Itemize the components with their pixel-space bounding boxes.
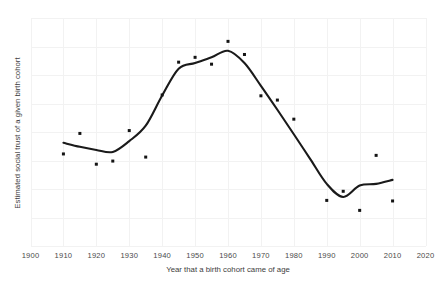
data-point: [62, 152, 65, 155]
x-tick-label: 2010: [384, 251, 402, 260]
data-point: [78, 132, 81, 135]
x-tick-label: 1990: [318, 251, 336, 260]
data-point: [194, 56, 197, 59]
x-tick-label: 1930: [120, 251, 138, 260]
x-tick-label: 1900: [22, 251, 40, 260]
data-point: [161, 93, 164, 96]
data-point: [276, 99, 279, 102]
x-tick-label: 2020: [417, 251, 435, 260]
x-tick-label: 1940: [153, 251, 171, 260]
data-point: [292, 118, 295, 121]
data-point: [111, 160, 114, 163]
x-tick-label: 1910: [55, 251, 73, 260]
x-tick-label: 1970: [252, 251, 270, 260]
data-point: [342, 190, 345, 193]
y-axis-title: Estimated social trust of a given birth …: [13, 57, 22, 209]
data-point: [358, 209, 361, 212]
data-point: [144, 156, 147, 159]
data-point: [325, 199, 328, 202]
data-point: [95, 163, 98, 166]
data-point: [210, 63, 213, 66]
data-point: [391, 199, 394, 202]
x-tick-label: 2000: [351, 251, 369, 260]
x-tick-label: 1980: [285, 251, 303, 260]
data-point: [375, 154, 378, 157]
social-trust-scatter-chart: 1900191019201930194019501960197019801990…: [0, 0, 447, 286]
chart-container: 1900191019201930194019501960197019801990…: [0, 0, 447, 286]
x-tick-label: 1950: [186, 251, 204, 260]
x-tick-label: 1920: [87, 251, 105, 260]
data-point: [227, 40, 230, 43]
data-point: [243, 53, 246, 56]
x-tick-label: 1960: [219, 251, 237, 260]
data-point: [128, 129, 131, 132]
x-axis-title: Year that a birth cohort came of age: [166, 265, 290, 274]
data-point: [259, 94, 262, 97]
data-point: [177, 61, 180, 64]
